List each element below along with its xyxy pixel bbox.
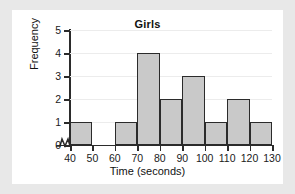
x-axis-tick (160, 145, 162, 151)
y-axis-tick-label: 2 (48, 94, 61, 104)
y-axis-label: Frequency (28, 0, 40, 104)
histogram-bar (182, 76, 204, 145)
x-axis-label: Time (seconds) (12, 165, 283, 177)
gridline (70, 30, 272, 31)
gridline (70, 53, 272, 54)
y-axis-tick-label: 3 (48, 71, 61, 81)
histogram-bar (227, 99, 249, 145)
x-axis-tick (70, 145, 72, 151)
histogram-bar (70, 122, 92, 145)
x-axis-tick (92, 145, 94, 151)
x-axis-tick (227, 145, 229, 151)
histogram-bar (115, 122, 137, 145)
x-axis-tick (137, 145, 139, 151)
x-axis-tick (205, 145, 207, 151)
x-axis-tick (115, 145, 117, 151)
y-axis-tick-label: 4 (48, 48, 61, 58)
histogram-bar (160, 99, 182, 145)
histogram-bar (250, 122, 272, 145)
y-axis-tick-label: 1 (48, 117, 61, 127)
x-axis-tick (182, 145, 184, 151)
x-axis-tick-label: 130 (259, 153, 285, 164)
chart-card: Girls Frequency Time (seconds) 012345 40… (12, 10, 283, 184)
y-axis-tick-label: 5 (48, 25, 61, 35)
plot-area (70, 30, 272, 145)
x-axis-tick (250, 145, 252, 151)
histogram-bar (205, 122, 227, 145)
y-axis-tick-label: 0 (48, 140, 61, 150)
gridline (70, 76, 272, 77)
histogram-bar (137, 53, 159, 145)
x-axis-tick (272, 145, 274, 151)
